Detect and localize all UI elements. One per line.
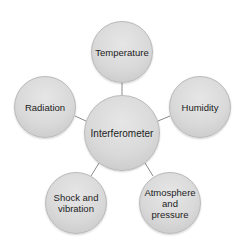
node-temperature: Temperature <box>91 21 153 83</box>
node-atmosphere-label: Atmosphere and pressure <box>144 187 195 220</box>
node-radiation-label: Radiation <box>25 102 65 113</box>
node-temperature-label: Temperature <box>95 47 148 58</box>
node-atmosphere-and-pressure: Atmosphere and pressure <box>139 172 201 234</box>
node-shock-and-vibration: Shock and vibration <box>45 172 107 234</box>
connector-atmosphere <box>145 163 153 176</box>
interferometer-influences-diagram: Temperature Humidity Atmosphere and pres… <box>0 0 245 245</box>
node-radiation: Radiation <box>14 76 76 138</box>
node-interferometer-center: Interferometer <box>84 95 160 171</box>
node-shock-label: Shock and vibration <box>54 192 99 214</box>
node-humidity-label: Humidity <box>182 102 219 113</box>
node-humidity: Humidity <box>169 76 231 138</box>
connector-shock <box>91 163 99 176</box>
connector-radiation <box>75 116 86 121</box>
connector-humidity <box>158 116 170 121</box>
center-label: Interferometer <box>91 128 154 139</box>
